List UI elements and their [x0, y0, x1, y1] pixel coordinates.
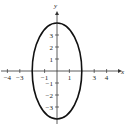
x-tick-label: −3 — [16, 74, 24, 82]
y-axis-label: y — [53, 2, 58, 10]
axes — [1, 11, 122, 124]
y-tick-label: 3 — [50, 32, 54, 40]
x-tick-label: 3 — [92, 74, 96, 82]
x-tick-label: −4 — [4, 74, 12, 82]
tick-labels: −4−3−1134321−1−2−3 — [4, 32, 109, 112]
y-tick-label: −2 — [46, 92, 54, 100]
x-tick-label: 4 — [105, 74, 109, 82]
y-tick-label: −1 — [46, 80, 54, 88]
y-tick-label: 2 — [50, 44, 54, 52]
y-tick-label: −3 — [46, 104, 54, 112]
y-tick-label: 1 — [50, 56, 54, 64]
y-axis-arrow-icon — [55, 11, 59, 15]
x-tick-label: 1 — [68, 74, 72, 82]
ellipse-plot: −4−3−1134321−1−2−3 x y — [0, 0, 126, 124]
x-axis-label: x — [120, 68, 125, 76]
